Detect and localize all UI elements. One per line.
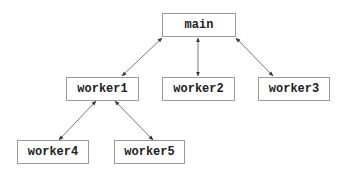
edge-main-worker1 [122,38,162,76]
node-worker3-label: worker3 [269,82,319,96]
node-worker4-label: worker4 [28,145,78,159]
node-worker4: worker4 [17,140,89,164]
node-worker1-label: worker1 [77,82,127,96]
node-main: main [162,13,236,37]
diagram-canvas: main worker1 worker2 worker3 worker4 wor… [0,0,349,178]
node-worker2: worker2 [162,77,235,101]
edge-worker1-worker5 [115,101,153,140]
node-worker3: worker3 [258,77,330,101]
node-worker5-label: worker5 [124,145,174,159]
node-worker2-label: worker2 [173,82,223,96]
node-worker1: worker1 [66,77,139,101]
node-main-label: main [185,18,214,32]
edge-worker1-worker4 [59,101,96,140]
node-worker5: worker5 [114,140,185,164]
edge-main-worker3 [236,38,273,76]
